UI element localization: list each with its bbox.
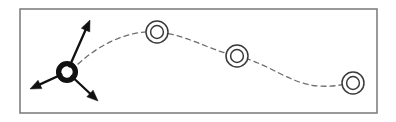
trajectory-marker-2-inner-ring [231,50,244,63]
trajectory-marker-1 [146,21,168,43]
trajectory-marker-1-inner-ring [151,26,164,39]
source-particle-hole [62,67,72,77]
source-particle [59,64,76,81]
trajectory-marker-3-inner-ring [347,77,360,90]
trajectory-marker-2 [226,45,248,67]
diagram-canvas: Particle trajectory with force vectors [0,0,396,122]
diagram-svg [0,0,396,122]
figure-border [20,9,377,113]
trajectory-marker-3 [342,72,364,94]
